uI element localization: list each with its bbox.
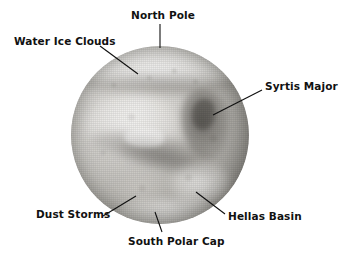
label-dust-storms: Dust Storms [36, 208, 110, 220]
label-south-polar-cap: South Polar Cap [128, 235, 225, 247]
label-hellas-basin: Hellas Basin [228, 210, 302, 222]
mars-planet-disc [71, 46, 249, 224]
label-water-ice-clouds: Water Ice Clouds [14, 35, 116, 47]
mars-diagram: North Pole Water Ice Clouds Syrtis Major… [0, 0, 350, 256]
photo-grain-overlay [71, 46, 249, 224]
label-north-pole: North Pole [131, 9, 195, 21]
label-syrtis-major: Syrtis Major [265, 80, 338, 92]
